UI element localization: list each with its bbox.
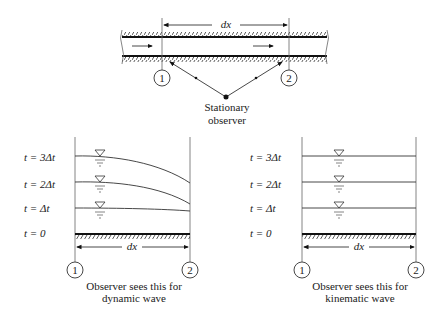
time-label-dt: t = Δt <box>250 202 276 214</box>
dx-label: dx <box>221 18 232 30</box>
water-level-icon <box>334 202 344 218</box>
channel-top-view: dx 1 2 Stationary observer <box>121 18 329 126</box>
time-label-0: t = 0 <box>24 227 46 239</box>
section-1-label: 1 <box>299 264 305 276</box>
time-label-0: t = 0 <box>250 227 272 239</box>
observer-label-line2: observer <box>208 114 246 126</box>
section-2-label: 2 <box>286 72 292 84</box>
caption-line1: Observer sees this for <box>86 280 182 292</box>
water-surface-3dt <box>75 156 190 183</box>
observer-dot-icon <box>224 95 229 100</box>
time-label-3dt: t = 3Δt <box>250 151 282 163</box>
water-level-icon <box>95 150 105 166</box>
dx-label: dx <box>127 240 138 252</box>
time-label-2dt: t = 2Δt <box>24 178 56 190</box>
section-2-label: 2 <box>413 264 419 276</box>
section-1-label: 1 <box>72 264 78 276</box>
time-label-3dt: t = 3Δt <box>24 151 56 163</box>
water-surface-dt <box>75 208 190 211</box>
sight-line-left <box>170 62 226 97</box>
observer-label-line1: Stationary <box>204 101 250 113</box>
wave-diagram: dx 1 2 Stationary observer t = 3Δt t = 2… <box>0 0 448 313</box>
time-label-2dt: t = 2Δt <box>250 178 282 190</box>
dynamic-wave-panel: t = 3Δt t = 2Δt t = Δt t = 0 dx 1 2 Ob <box>24 137 198 304</box>
time-label-dt: t = Δt <box>24 202 50 214</box>
water-level-icon <box>95 176 105 192</box>
caption-line2: dynamic wave <box>102 292 166 304</box>
bed-hatch <box>302 235 416 239</box>
water-level-icon <box>95 202 105 218</box>
dx-label: dx <box>354 240 365 252</box>
water-level-icon <box>334 176 344 192</box>
water-level-icon <box>334 150 344 166</box>
sight-line-right <box>226 62 282 97</box>
channel-bottom-hatch <box>122 57 327 62</box>
water-surface-2dt <box>75 182 190 204</box>
section-2-label: 2 <box>187 264 193 276</box>
sight-mid-marker <box>255 77 258 80</box>
caption-line2: kinematic wave <box>325 292 394 304</box>
bed-hatch <box>75 235 190 239</box>
kinematic-wave-panel: t = 3Δt t = 2Δt t = Δt t = 0 dx 1 2 Ob <box>250 137 424 304</box>
sight-mid-marker <box>195 77 198 80</box>
caption-line1: Observer sees this for <box>312 280 408 292</box>
section-1-label: 1 <box>159 72 165 84</box>
